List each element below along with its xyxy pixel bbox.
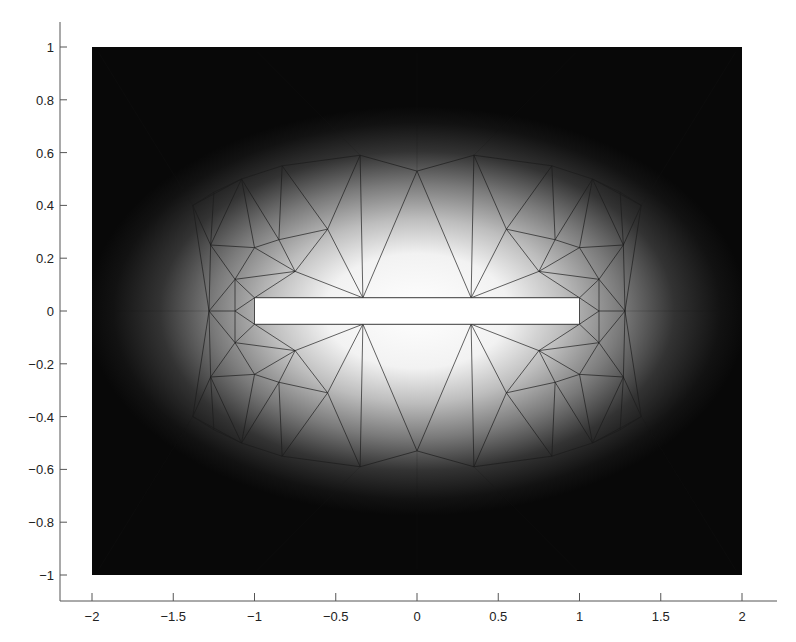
y-axis-ticks: 10.80.60.40.20−0.2−0.4−0.6−0.8−1 xyxy=(28,40,67,583)
x-tick-label: 2 xyxy=(738,609,745,624)
y-tick-label: 0.2 xyxy=(36,251,54,266)
y-tick-label: 0.4 xyxy=(36,198,54,213)
y-tick-label: −0.6 xyxy=(28,462,54,477)
x-tick-label: −0.5 xyxy=(323,609,349,624)
mesh-plot: −2−1.5−1−0.500.511.52 10.80.60.40.20−0.2… xyxy=(0,0,796,642)
slot-rect xyxy=(255,298,580,324)
y-tick-label: −0.2 xyxy=(28,357,54,372)
x-tick-label: 0 xyxy=(413,609,420,624)
x-tick-label: −1.5 xyxy=(160,609,186,624)
x-tick-label: −2 xyxy=(85,609,100,624)
x-axis-ticks: −2−1.5−1−0.500.511.52 xyxy=(85,593,746,624)
y-tick-label: −0.4 xyxy=(28,410,54,425)
x-tick-label: −1 xyxy=(247,609,262,624)
y-tick-label: 0.6 xyxy=(36,146,54,161)
y-tick-label: 1 xyxy=(47,40,54,55)
y-tick-label: −1 xyxy=(39,568,54,583)
x-tick-label: 1 xyxy=(576,609,583,624)
y-tick-label: 0.8 xyxy=(36,93,54,108)
x-tick-label: 1.5 xyxy=(652,609,670,624)
y-tick-label: 0 xyxy=(47,304,54,319)
y-tick-label: −0.8 xyxy=(28,515,54,530)
x-tick-label: 0.5 xyxy=(489,609,507,624)
